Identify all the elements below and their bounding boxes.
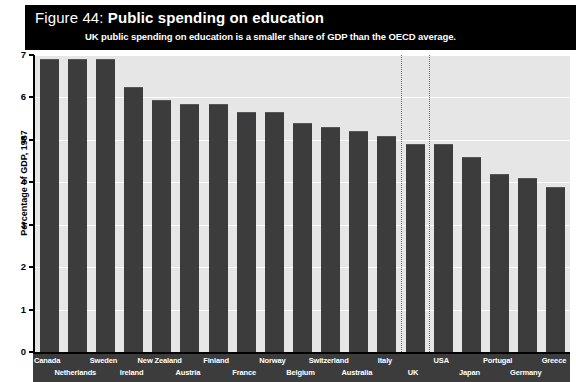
x-category-label-belgium: Belgium (286, 368, 315, 377)
y-tick-label-7: 7 (0, 49, 26, 60)
x-category-label-canada: Canada (34, 356, 60, 365)
bar-greece (546, 187, 565, 352)
bar-japan (462, 157, 481, 352)
x-category-label-portugal: Portugal (483, 356, 512, 365)
x-category-label-switzerland: Switzerland (309, 356, 349, 365)
header-subtitle: UK public spending on education is a sma… (85, 31, 456, 42)
x-category-label-germany: Germany (510, 368, 541, 377)
bar-sweden (96, 59, 115, 352)
gridline-6 (35, 97, 570, 98)
x-category-label-france: France (232, 368, 256, 377)
y-tick-label-2: 2 (0, 261, 26, 272)
x-category-label-sweden: Sweden (90, 356, 117, 365)
header-title-line: Figure 44: Public spending on education (35, 9, 324, 26)
bar-uk (406, 144, 425, 352)
x-category-label-finland: Finland (203, 356, 229, 365)
bar-canada (40, 59, 59, 352)
x-category-label-austria: Austria (175, 368, 200, 377)
y-tick-label-1: 1 (0, 304, 26, 315)
bar-usa (434, 144, 453, 352)
bar-ireland (124, 87, 143, 352)
x-category-label-norway: Norway (259, 356, 285, 365)
x-category-label-japan: Japan (459, 368, 480, 377)
bar-belgium (293, 123, 312, 352)
x-category-label-greece: Greece (542, 356, 567, 365)
x-category-label-uk: UK (408, 368, 419, 377)
bar-switzerland (321, 127, 340, 352)
bar-france (237, 112, 256, 352)
y-tick-label-0: 0 (0, 346, 26, 357)
x-category-label-italy: Italy (378, 356, 392, 365)
bar-italy (377, 136, 396, 352)
y-tick-label-4: 4 (0, 176, 26, 187)
bar-norway (265, 112, 284, 352)
bar-netherlands (68, 59, 87, 352)
x-category-label-ireland: Ireland (120, 368, 144, 377)
chart-header: Figure 44: Public spending on education … (25, 5, 576, 50)
x-category-label-netherlands: Netherlands (54, 368, 96, 377)
marker-line-right (429, 55, 430, 352)
bar-austria (180, 104, 199, 352)
category-label-band: CanadaNetherlandsSwedenIrelandNew Zealan… (33, 354, 570, 382)
x-category-label-australia: Australia (341, 368, 372, 377)
bar-finland (209, 104, 228, 352)
bar-germany (518, 178, 537, 352)
page-title: Public spending on education (108, 9, 324, 26)
figure-number: Figure 44: (35, 9, 104, 26)
plot-area (33, 55, 570, 352)
y-tick-label-3: 3 (0, 219, 26, 230)
y-tick-label-5: 5 (0, 134, 26, 145)
chart-page: Figure 44: Public spending on education … (0, 0, 576, 382)
y-tick-label-6: 6 (0, 91, 26, 102)
bar-new-zealand (152, 100, 171, 352)
bar-portugal (490, 174, 509, 352)
x-category-label-new-zealand: New Zealand (138, 356, 182, 365)
bar-australia (349, 131, 368, 352)
x-category-label-usa: USA (434, 356, 449, 365)
plot-inner (35, 55, 570, 352)
gridline-7 (35, 55, 570, 56)
marker-line-left (401, 55, 402, 352)
